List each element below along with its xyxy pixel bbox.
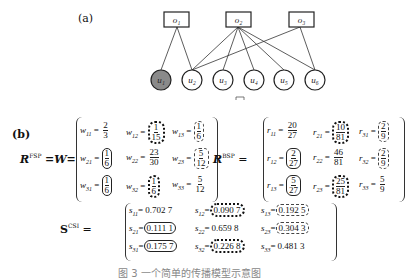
matrix-cell-w11: w11 = 23 xyxy=(80,121,110,140)
svg-text:u₁: u₁ xyxy=(157,75,165,85)
matrix-cell-s12: s12=0.090 7 xyxy=(195,205,245,217)
matrix-cell-r22: r22 = 4681 xyxy=(313,148,345,167)
matrix-cell-s33: s33=0.481 3 xyxy=(261,241,307,253)
matrix-cell-s32: s32=0.226 8 xyxy=(195,241,245,253)
bsp-lhs: RBSP = xyxy=(213,152,247,166)
panel-b-label: (b) xyxy=(12,128,30,141)
matrix-cell-r33: r33 = 59 xyxy=(359,175,387,194)
svg-text:u₂: u₂ xyxy=(188,75,196,85)
matrix-cell-s22: s22=0.659 8 xyxy=(195,223,241,235)
svg-text:u₅: u₅ xyxy=(280,75,288,85)
matrix-cell-r21: r21 = 1081 xyxy=(313,121,349,144)
matrix-cell-w12: w12 = 115 xyxy=(126,121,165,144)
fsp-lhs: RFSP =W= xyxy=(20,152,76,166)
user-nodes xyxy=(151,70,325,90)
matrix-cell-s31: s31=0.175 7 xyxy=(129,241,177,253)
down-arrow-icon xyxy=(230,97,250,100)
matrix-cell-r12: r12 = 227 xyxy=(267,148,301,169)
svg-text:u₄: u₄ xyxy=(250,75,258,85)
bipartite-graph: o₁o₂o₃ u₁u₂u₃ u₄u₅u₆ xyxy=(0,0,410,100)
matrix-cell-r31: r31 = 29 xyxy=(359,121,389,142)
matrix-cell-w21: w21 = 16 xyxy=(80,148,112,169)
svg-text:o₃: o₃ xyxy=(298,15,306,25)
matrix-cell-r11: r11 = 2027 xyxy=(267,121,299,140)
svg-text:o₁: o₁ xyxy=(173,15,181,25)
matrix-cell-s21: s21=0.111 1 xyxy=(129,223,176,235)
matrix-cell-s23: s23=0.304 3 xyxy=(261,223,309,235)
csi-lhs: SCSI = xyxy=(60,222,92,236)
matrix-cell-r13: r13 = 527 xyxy=(267,175,301,196)
matrix-cell-w33: w33 = 512 xyxy=(172,175,207,194)
matrix-cell-s13: s13=0.192 5 xyxy=(261,205,309,217)
matrix-cell-w23: w23 = 512 xyxy=(172,148,209,169)
figure-caption: 图 3 一个简单的传播模型示意图 xyxy=(118,265,261,280)
matrix-cell-s11: s11=0.702 7 xyxy=(129,205,174,217)
svg-text:u₆: u₆ xyxy=(311,75,319,85)
matrix-cell-r23: r23 = 2581 xyxy=(313,175,349,198)
matrix-cell-w22: w22 = 2330 xyxy=(126,148,161,167)
matrix-cell-w32: w32 = 16 xyxy=(126,175,160,198)
matrix-cell-r32: r32 = 29 xyxy=(359,148,389,169)
svg-text:o₂: o₂ xyxy=(235,15,243,25)
svg-text:u₃: u₃ xyxy=(219,75,227,85)
matrix-cell-w13: w13 = 16 xyxy=(172,121,204,142)
matrix-cell-w31: w31 = 16 xyxy=(80,175,112,196)
